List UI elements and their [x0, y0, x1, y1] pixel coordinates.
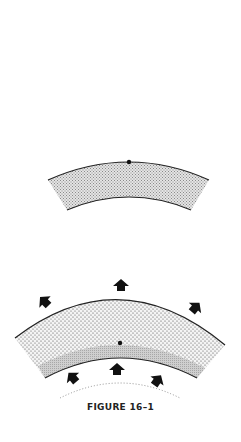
arrow-lower-left-icon	[62, 367, 82, 386]
figure-caption: FIGURE 16–1	[0, 402, 241, 412]
lower-dot-marker	[118, 341, 122, 345]
arrow-up-icon	[113, 279, 129, 291]
upper-panel	[48, 160, 209, 210]
upper-dot-marker	[127, 160, 131, 164]
arrow-lower-center-icon	[109, 363, 125, 375]
arrow-up-right-icon	[186, 297, 206, 316]
upper-band	[48, 162, 209, 210]
arrow-up-left-icon	[34, 291, 54, 311]
lower-panel	[15, 279, 225, 398]
figure-16-1-diagram	[0, 0, 241, 442]
dotted-inner-arc	[60, 383, 180, 398]
